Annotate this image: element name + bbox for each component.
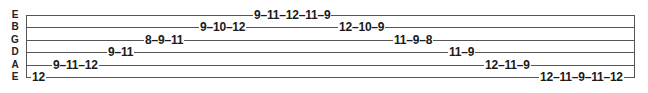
- string-label-d: D: [10, 47, 20, 57]
- fret-phrase: 9–11–12–11–9: [253, 9, 331, 21]
- string-line-b: [26, 27, 634, 28]
- fret-phrase: 9–10–12: [199, 21, 246, 33]
- guitar-tablature: E B G D A E 12 9–11–12 9–11 8–9–11 9–10–…: [0, 0, 648, 93]
- left-barline: [26, 15, 27, 78]
- fret-phrase: 12–10–9: [338, 21, 385, 33]
- fret-phrase: 9–11: [107, 46, 134, 58]
- string-label-b: B: [10, 22, 20, 32]
- fret-phrase: 12: [31, 71, 46, 83]
- right-barline: [634, 15, 635, 78]
- string-label-high-e: E: [10, 10, 20, 20]
- string-label-a: A: [10, 60, 20, 70]
- fret-phrase: 11–9: [448, 46, 475, 58]
- fret-phrase: 12–11–9–11–12: [539, 71, 624, 83]
- string-label-low-e: E: [10, 72, 20, 82]
- string-line-a: [26, 65, 634, 66]
- fret-phrase: 12–11–9: [484, 59, 531, 71]
- string-label-g: G: [10, 35, 20, 45]
- fret-phrase: 9–11–12: [52, 59, 99, 71]
- fret-phrase: 11–9–8: [393, 34, 433, 46]
- fret-phrase: 8–9–11: [144, 34, 184, 46]
- string-line-g: [26, 40, 634, 41]
